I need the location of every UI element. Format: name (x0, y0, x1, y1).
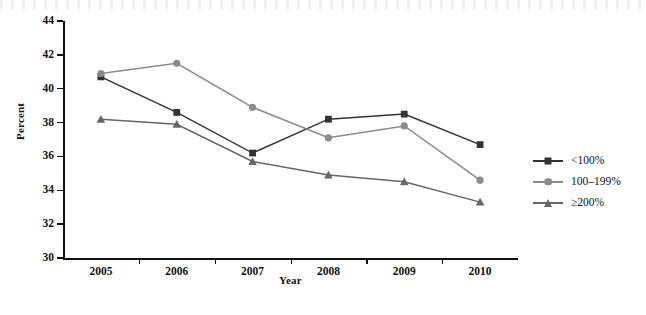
x-tick (366, 258, 367, 264)
y-tick-label: 32 (43, 218, 55, 230)
data-point-marker (248, 157, 257, 165)
y-tick-label: 34 (43, 185, 55, 197)
y-axis-title: Percent (14, 103, 26, 140)
data-point-marker (325, 116, 332, 123)
series-line (101, 119, 480, 202)
x-tick (442, 258, 443, 264)
chart-legend: <100%100–199%≥200% (533, 150, 638, 213)
data-point-marker (477, 141, 484, 148)
y-tick-label: 44 (43, 15, 55, 27)
legend-item[interactable]: 100–199% (533, 171, 638, 192)
circle-marker-icon (533, 176, 563, 187)
line-chart: Percent 3032343638404244 200520062007200… (0, 0, 646, 315)
series-layer (63, 21, 518, 258)
data-point-marker (401, 111, 408, 118)
series-triangle (97, 115, 485, 206)
y-tick-label: 38 (43, 117, 55, 129)
data-point-marker (173, 109, 180, 116)
y-tick-label: 36 (43, 151, 55, 163)
data-point-marker (97, 70, 104, 77)
data-point-marker (249, 150, 256, 157)
legend-label: <100% (571, 155, 604, 167)
legend-item[interactable]: <100% (533, 150, 638, 171)
square-marker-icon (533, 155, 563, 166)
triangle-marker-icon (533, 197, 563, 208)
data-point-marker (173, 60, 180, 67)
legend-item[interactable]: ≥200% (533, 192, 638, 213)
y-tick-label: 40 (43, 83, 55, 95)
data-point-marker (476, 177, 483, 184)
series-circle (97, 60, 483, 184)
scan-artifact (0, 0, 646, 10)
legend-label: 100–199% (571, 176, 621, 188)
x-tick (139, 258, 140, 264)
y-tick-label: 42 (43, 49, 55, 61)
x-tick (215, 258, 216, 264)
data-point-marker (249, 104, 256, 111)
x-tick (291, 258, 292, 264)
data-point-marker (401, 122, 408, 129)
x-axis-title: Year (63, 274, 518, 286)
series-square (98, 73, 484, 156)
legend-label: ≥200% (571, 197, 604, 209)
plot-area: 3032343638404244 20052006200720082009201… (63, 21, 518, 258)
y-tick-label: 30 (43, 252, 55, 264)
data-point-marker (325, 134, 332, 141)
series-line (101, 77, 480, 153)
